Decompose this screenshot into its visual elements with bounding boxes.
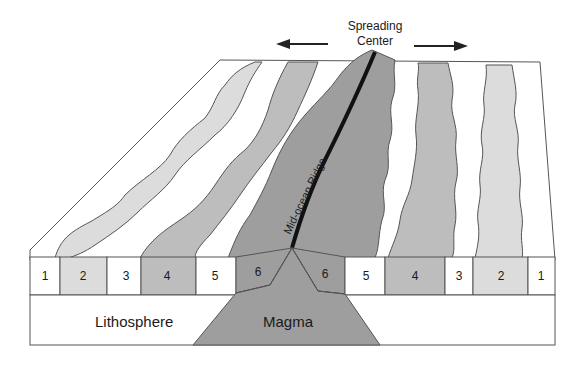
spreading-center-label-line1: Spreading: [348, 19, 403, 33]
lithosphere-label: Lithosphere: [95, 313, 173, 330]
magma-label: Magma: [263, 313, 314, 330]
stripe-label: 5: [363, 269, 370, 283]
stripe-label: 4: [412, 269, 419, 283]
seafloor-spreading-diagram: Spreading Center Mid-ocean Ridge: [0, 0, 577, 372]
stripe-label: 1: [538, 269, 545, 283]
stripe-label: 5: [212, 269, 219, 283]
stripe-label: 1: [42, 269, 49, 283]
arrow-right-icon: [414, 41, 468, 51]
stripe-label: 3: [123, 269, 130, 283]
arrow-left-icon: [276, 39, 328, 49]
stripe-label: 3: [456, 269, 463, 283]
stripe-label: 4: [164, 269, 171, 283]
stripe-label: 6: [255, 265, 262, 279]
stripe-label: 6: [322, 267, 329, 281]
stripe-label: 2: [498, 269, 505, 283]
spreading-center-label-line2: Center: [357, 34, 393, 48]
stripe-label: 2: [80, 269, 87, 283]
